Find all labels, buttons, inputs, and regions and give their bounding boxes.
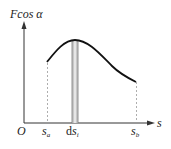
sb-label: sb [131, 124, 140, 139]
force-curve [47, 40, 136, 82]
y-axis-label: Fcos α [9, 7, 43, 21]
origin-label: O [17, 124, 26, 138]
x-axis-label: s [157, 116, 162, 130]
sa-label: sa [42, 124, 51, 139]
y-axis-arrow-icon [22, 21, 27, 29]
x-axis-arrow-icon [147, 121, 155, 126]
work-integral-diagram: Fcos α s O sa dsi sb [0, 0, 171, 149]
dsi-label: dsi [66, 124, 79, 139]
